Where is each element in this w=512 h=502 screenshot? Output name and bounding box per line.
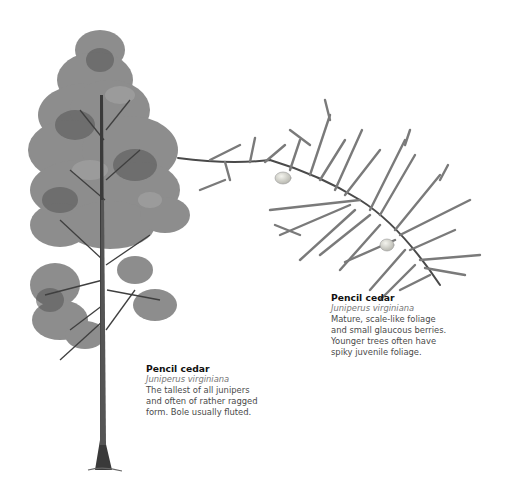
- pencil-cedar-tree-illustration: [0, 0, 512, 502]
- caption-line: spiky juvenile foliage.: [331, 347, 481, 358]
- caption-line: The tallest of all junipers: [146, 385, 296, 396]
- caption-line: Younger trees often have: [331, 336, 481, 347]
- berry: [275, 172, 291, 184]
- caption-line: form. Bole usually fluted.: [146, 407, 296, 418]
- tree-caption: Pencil cedar Juniperus virginiana The ta…: [146, 363, 296, 418]
- foliage-sprig-drawing: [178, 100, 480, 300]
- berry: [380, 239, 394, 251]
- caption-title: Pencil cedar: [146, 363, 296, 374]
- caption-line: and small glaucous berries.: [331, 325, 481, 336]
- caption-line: and often of rather ragged: [146, 396, 296, 407]
- caption-line: Mature, scale-like foliage: [331, 314, 481, 325]
- caption-title: Pencil cedar: [331, 292, 481, 303]
- caption-latin-name: Juniperus virginiana: [146, 374, 296, 385]
- branch-caption: Pencil cedar Juniperus virginiana Mature…: [331, 292, 481, 358]
- caption-latin-name: Juniperus virginiana: [331, 303, 481, 314]
